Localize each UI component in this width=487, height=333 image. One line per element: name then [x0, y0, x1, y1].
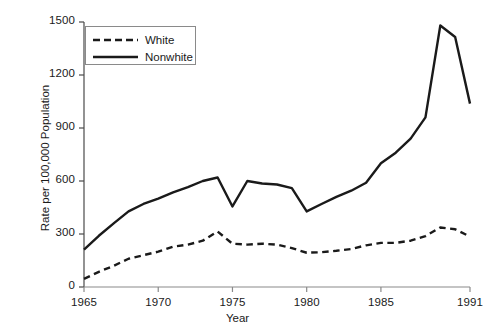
y-axis-ticks: [79, 22, 84, 287]
x-axis-title: Year: [0, 312, 475, 324]
series-line-white: [84, 227, 470, 278]
x-axis-tick-label: 1991: [440, 296, 487, 308]
x-axis-tick-label: 1980: [277, 296, 337, 308]
x-axis-tick-label: 1970: [128, 296, 188, 308]
legend-label-nonwhite: Nonwhite: [145, 51, 193, 63]
x-axis-tick-label: 1985: [351, 296, 411, 308]
legend-item-white[interactable]: White: [86, 31, 197, 48]
chart-legend: White Nonwhite: [85, 26, 196, 65]
legend-item-nonwhite[interactable]: Nonwhite: [86, 48, 197, 65]
legend-label-white: White: [145, 34, 174, 46]
y-axis-title: Rate per 100,000 Population: [39, 53, 51, 263]
y-axis-tick-label: 0: [20, 279, 75, 291]
legend-swatch-solid-icon: [92, 51, 139, 63]
x-axis-tick-label: 1965: [54, 296, 114, 308]
y-axis-tick-label: 1500: [20, 14, 75, 26]
x-axis-tick-label: 1975: [202, 296, 262, 308]
x-axis-ticks: [84, 287, 470, 292]
legend-swatch-dashed-icon: [92, 34, 139, 46]
